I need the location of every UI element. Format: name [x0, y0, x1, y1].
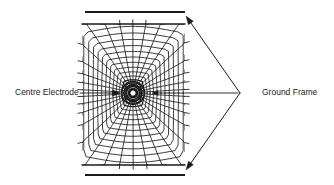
ground-frame-leader-lower-arrowhead [186, 161, 193, 170]
flux-line-stub [78, 73, 82, 74]
flux-line-stub [78, 113, 82, 114]
centre-electrode-label: Centre Electrode [15, 88, 79, 97]
flux-line-stub [78, 43, 82, 44]
flux-line-stub [78, 142, 82, 143]
annotation-leaders [80, 16, 240, 170]
flux-line-stub [78, 61, 82, 62]
flux-line-stub [78, 125, 82, 126]
flux-line-stub [185, 143, 189, 144]
flux-line-stub [185, 42, 189, 43]
ground-frame-leader-upper-shaft [190, 22, 240, 93]
flux-line-stub [185, 113, 189, 114]
ground-frame-leader-lower-shaft [190, 93, 240, 164]
ground-frame-leader-upper-arrowhead [186, 16, 193, 25]
flux-line-stub [185, 60, 189, 61]
flux-line-stub [185, 72, 189, 73]
centre-electrode [122, 82, 145, 105]
field-plot-diagram: Centre Electrode Ground Frame [0, 0, 334, 185]
centre-electrode-core [130, 90, 136, 96]
ground-frame-label: Ground Frame [262, 88, 317, 97]
flux-line-stub [185, 125, 189, 126]
